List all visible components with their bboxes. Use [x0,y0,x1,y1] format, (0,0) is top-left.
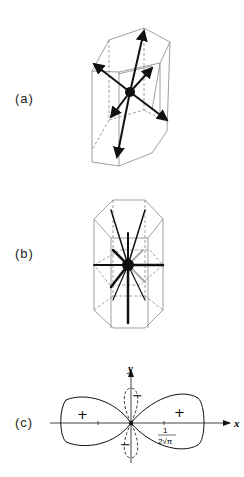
tick-numerator: 1 [163,426,168,435]
left-lobe-sign: + [77,407,88,422]
diagram-canvas: x y + + − − 1 2√π [0,0,244,477]
prism-a [92,28,170,166]
lower-lobe-sign: − [120,437,131,452]
y-axis-label: y [126,362,133,374]
origin-point [129,421,133,425]
tick-denominator: 2√π [158,437,173,446]
plot-c: x y + + − − 1 2√π [50,362,240,463]
central-atom-b [122,259,134,271]
upper-lobe-sign: − [132,388,143,403]
central-atom-a [125,87,135,97]
x-axis-label: x [233,417,240,429]
right-lobe-sign: + [174,405,185,420]
